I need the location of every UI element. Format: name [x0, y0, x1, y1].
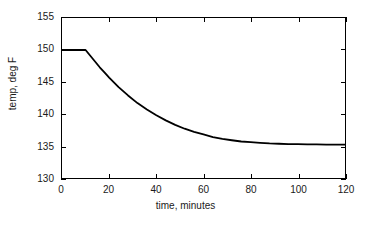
x-tick-mark	[346, 17, 347, 22]
y-tick-label: 155	[16, 12, 54, 22]
x-tick-mark	[204, 174, 205, 179]
x-tick-mark	[156, 17, 157, 22]
y-tick-mark	[341, 179, 346, 180]
x-tick-label: 120	[326, 185, 366, 195]
y-tick-label: 140	[16, 109, 54, 119]
x-tick-label: 60	[184, 185, 224, 195]
y-tick-mark	[341, 49, 346, 50]
x-tick-label: 80	[231, 185, 271, 195]
y-tick-label: 150	[16, 44, 54, 54]
x-tick-mark	[61, 17, 62, 22]
data-curve	[62, 18, 345, 178]
y-tick-label: 145	[16, 77, 54, 87]
x-tick-mark	[61, 174, 62, 179]
x-tick-label: 40	[136, 185, 176, 195]
y-tick-label: 130	[16, 174, 54, 184]
x-tick-label: 100	[279, 185, 319, 195]
y-tick-mark	[341, 82, 346, 83]
x-tick-mark	[204, 17, 205, 22]
x-tick-mark	[109, 17, 110, 22]
y-tick-mark	[61, 114, 66, 115]
y-tick-mark	[341, 114, 346, 115]
x-axis-title: time, minutes	[0, 200, 371, 211]
y-tick-mark	[61, 147, 66, 148]
x-tick-mark	[109, 174, 110, 179]
plot-area	[61, 17, 346, 179]
figure-canvas: 130135140145150155020406080100120 time, …	[0, 0, 371, 226]
y-tick-mark	[61, 179, 66, 180]
x-tick-label: 0	[41, 185, 81, 195]
y-tick-mark	[61, 49, 66, 50]
x-tick-mark	[251, 17, 252, 22]
y-tick-label: 135	[16, 142, 54, 152]
y-tick-mark	[341, 147, 346, 148]
x-tick-mark	[346, 174, 347, 179]
x-tick-mark	[156, 174, 157, 179]
x-tick-mark	[299, 174, 300, 179]
y-tick-mark	[61, 82, 66, 83]
x-tick-label: 20	[89, 185, 129, 195]
x-tick-mark	[251, 174, 252, 179]
y-axis-title: temp, deg F	[7, 24, 18, 144]
x-tick-mark	[299, 17, 300, 22]
